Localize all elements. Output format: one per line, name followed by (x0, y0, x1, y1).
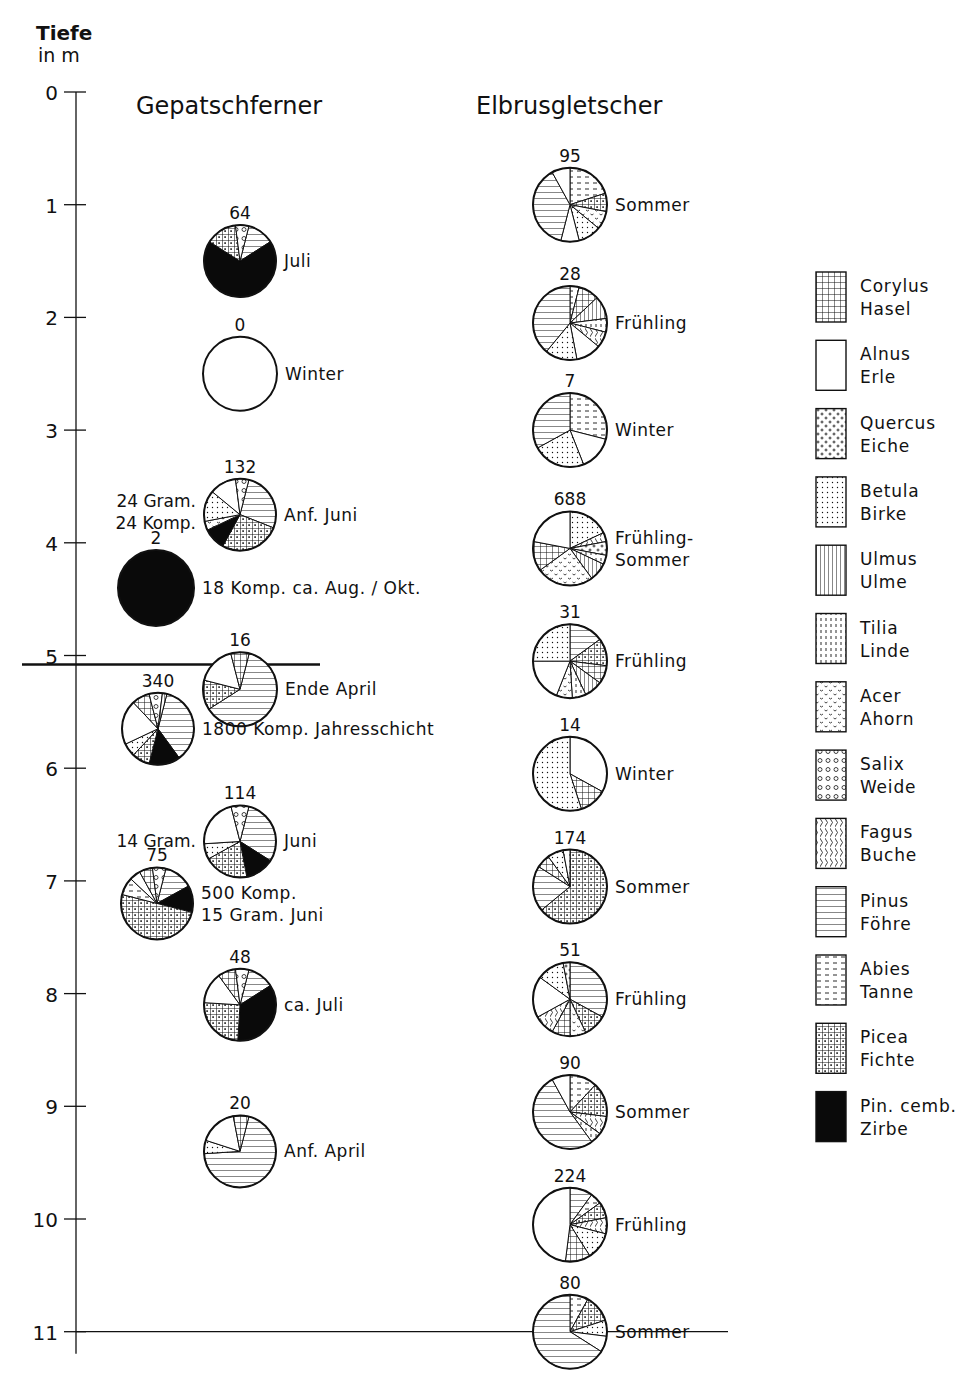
pie-sample: 224Frühling (533, 1166, 687, 1262)
season-label: Frühling (615, 313, 687, 333)
pie-sample: 95Sommer (533, 146, 690, 242)
legend-item-ulmus: UlmusUlme (816, 545, 917, 595)
axis-tick-label: 4 (45, 532, 58, 556)
axis-tick-label: 2 (45, 306, 58, 330)
season-label: Winter (615, 764, 674, 784)
legend-swatch (816, 340, 846, 390)
legend-latin: Fagus (860, 822, 913, 842)
season-label-line2: Sommer (615, 550, 690, 570)
axis-title-line2: in m (38, 44, 80, 66)
pollen-count: 224 (554, 1166, 586, 1186)
legend-item-quercus: QuercusEiche (816, 409, 936, 459)
axis-tick-label: 6 (45, 757, 58, 781)
legend-item-abies: AbiesTanne (816, 955, 914, 1005)
pollen-count: 28 (559, 264, 581, 284)
pie-sample: 31Frühling (533, 602, 687, 698)
legend-german: Fichte (860, 1050, 915, 1070)
legend-latin: Abies (860, 959, 910, 979)
legend-swatch (816, 409, 846, 459)
axis-tick-label: 11 (33, 1321, 58, 1345)
left-column-title: Gepatschferner (136, 92, 322, 120)
legend-swatch (816, 955, 846, 1005)
right-column-title: Elbrusgletscher (476, 92, 662, 120)
season-label: Sommer (615, 195, 690, 215)
pollen-chart: Tiefe in m Gepatschferner Elbrusgletsche… (0, 0, 974, 1398)
legend-german: Erle (860, 367, 896, 387)
legend-latin: Picea (860, 1027, 909, 1047)
legend-swatch (816, 545, 846, 595)
legend-item-betula: BetulaBirke (816, 477, 920, 527)
legend-latin: Quercus (860, 413, 936, 433)
depth-axis: 01234567891011 (33, 81, 86, 1354)
legend-latin: Corylus (860, 276, 929, 296)
legend-latin: Pinus (860, 891, 909, 911)
pie-slice-alnus (533, 1188, 570, 1262)
axis-title-line1: Tiefe (36, 21, 92, 45)
season-label: Frühling (615, 1215, 687, 1235)
legend-item-fagus: FagusBuche (816, 818, 917, 868)
season-label: Frühling (615, 651, 687, 671)
legend-swatch (816, 1092, 846, 1142)
legend-latin: Salix (860, 754, 905, 774)
pollen-count: 114 (224, 783, 256, 803)
legend-german: Eiche (860, 436, 910, 456)
pollen-count: 174 (554, 828, 586, 848)
pie-sample: 48ca. Juli (204, 947, 344, 1041)
legend-swatch (816, 750, 846, 800)
pollen-count: 20 (229, 1093, 251, 1113)
season-label: Juni (283, 831, 317, 851)
legend-latin: Pin. cemb. (860, 1096, 957, 1116)
legend-german: Linde (860, 641, 910, 661)
legend-swatch (816, 818, 846, 868)
pie-sample: 688Frühling-Sommer (533, 489, 694, 585)
legend-swatch (816, 614, 846, 664)
legend-german: Tanne (859, 982, 914, 1002)
legend-item-picea: PiceaFichte (816, 1023, 915, 1073)
pie-sample: 3401800 Komp. Jahresschicht (122, 671, 434, 765)
legend-item-salix: SalixWeide (816, 750, 916, 800)
legend-item-alnus: AlnusErle (816, 340, 911, 390)
pie-sample: 14Winter (533, 715, 674, 811)
legend-latin: Ulmus (860, 549, 917, 569)
legend-item-tilia: TiliaLinde (816, 614, 910, 664)
axis-tick-label: 8 (45, 983, 58, 1007)
season-label: Anf. April (284, 1141, 366, 1161)
pie-sample: 7Winter (533, 371, 674, 467)
legend-latin: Betula (860, 481, 920, 501)
legend-german: Birke (860, 504, 907, 524)
season-label: Sommer (615, 877, 690, 897)
pie-sample: 90Sommer (533, 1053, 690, 1149)
legend-swatch (816, 682, 846, 732)
legend-german: Weide (860, 777, 916, 797)
season-label: Winter (285, 364, 344, 384)
season-label: 1800 Komp. Jahresschicht (202, 719, 434, 739)
pie-sample: 218 Komp. ca. Aug. / Okt. (118, 528, 421, 626)
pollen-count: 95 (559, 146, 581, 166)
pie-sample: 174Sommer (533, 828, 690, 924)
season-label-line1: 500 Komp. (201, 883, 297, 903)
season-label-line1: Frühling- (615, 528, 694, 548)
pollen-count: 688 (554, 489, 586, 509)
pollen-count: 64 (229, 203, 251, 223)
season-label-line2: 15 Gram. Juni (201, 905, 324, 925)
axis-tick-label: 0 (45, 81, 58, 105)
legend-item-acer: AcerAhorn (816, 682, 914, 732)
pollen-count: 16 (229, 630, 251, 650)
legend-german: Ulme (860, 572, 907, 592)
legend-latin: Alnus (860, 344, 911, 364)
legend-latin: Tilia (859, 618, 898, 638)
legend-swatch (816, 1023, 846, 1073)
season-label: ca. Juli (284, 995, 344, 1015)
season-label: Anf. Juni (284, 505, 358, 525)
pollen-count: 48 (229, 947, 251, 967)
pollen-count: 0 (235, 315, 246, 335)
pollen-count: 14 (559, 715, 581, 735)
pollen-count: 7 (565, 371, 576, 391)
legend-swatch (816, 887, 846, 937)
legend-swatch (816, 477, 846, 527)
season-label: Sommer (615, 1322, 690, 1342)
legend-german: Föhre (860, 914, 911, 934)
count-note: 24 Gram. (116, 491, 196, 511)
legend-item-corylus: CorylusHasel (816, 272, 929, 322)
pie-sample: 28Frühling (533, 264, 687, 360)
